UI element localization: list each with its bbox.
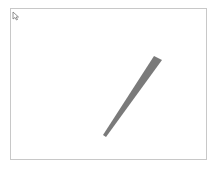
drawn-stroke-shape[interactable] bbox=[0, 0, 218, 170]
stroke-polygon[interactable] bbox=[103, 56, 162, 137]
